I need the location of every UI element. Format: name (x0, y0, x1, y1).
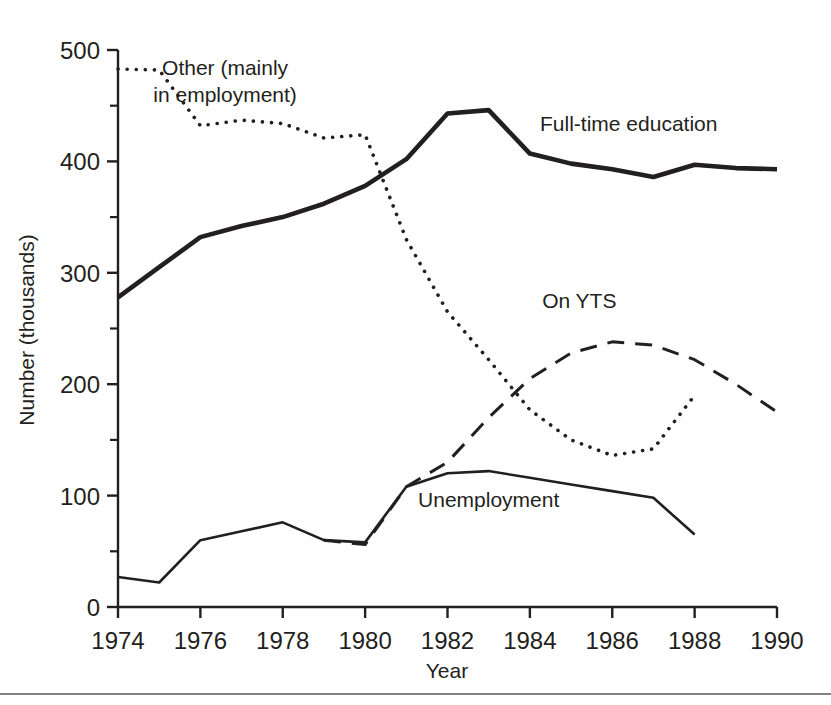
x-axis-tick-labels: 197419761978198019821984198619881990 (91, 627, 803, 654)
x-tick-label: 1978 (256, 627, 309, 654)
x-tick-label: 1976 (174, 627, 227, 654)
y-axis-tick-labels: 0100200300400500 (60, 37, 100, 621)
series-line (324, 342, 777, 545)
series-line (118, 471, 695, 582)
y-tick-label: 300 (60, 260, 100, 287)
series-annotation: Unemployment (418, 488, 559, 511)
y-tick-label: 400 (60, 148, 100, 175)
y-tick-label: 200 (60, 371, 100, 398)
chart-figure: 0100200300400500 19741976197819801982198… (0, 0, 831, 705)
y-tick-label: 500 (60, 37, 100, 64)
y-tick-label: 100 (60, 483, 100, 510)
x-axis-title: Year (426, 659, 468, 682)
series-annotation: Full-time education (540, 112, 717, 135)
series-line (118, 110, 777, 297)
x-axis-ticks (118, 607, 777, 618)
x-tick-label: 1982 (421, 627, 474, 654)
x-tick-label: 1974 (91, 627, 144, 654)
x-tick-label: 1990 (750, 627, 803, 654)
series-annotation: On YTS (542, 289, 616, 312)
x-tick-label: 1986 (586, 627, 639, 654)
y-axis-ticks (107, 50, 118, 607)
x-tick-label: 1984 (503, 627, 556, 654)
line-chart: 0100200300400500 19741976197819801982198… (0, 0, 831, 705)
y-axis-title: Number (thousands) (15, 234, 38, 425)
series-annotation: Other (mainlyin employment) (153, 56, 297, 106)
y-tick-label: 0 (87, 594, 100, 621)
x-tick-label: 1988 (668, 627, 721, 654)
x-tick-label: 1980 (338, 627, 391, 654)
